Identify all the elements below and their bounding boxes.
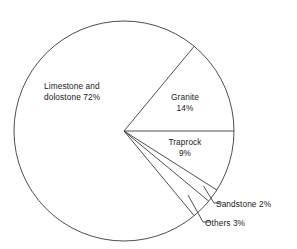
- pie-chart-canvas: [0, 0, 297, 249]
- slice-label-sandstone-text: Sandstone 2%: [216, 199, 271, 210]
- slice-label-limestone-line-2: dolostone 72%: [44, 92, 100, 103]
- slice-label-others-text: Others 3%: [205, 218, 245, 229]
- slice-label-limestone-line-1: Limestone and: [44, 81, 100, 92]
- slice-label-others: Others 3%: [205, 218, 245, 229]
- pie-chart-figure: Limestone and dolostone 72% Granite 14% …: [0, 0, 297, 249]
- slice-label-limestone-and-dolostone: Limestone and dolostone 72%: [44, 81, 100, 102]
- slice-label-granite-value: 14%: [154, 103, 216, 114]
- slice-label-traprock-name: Traprock: [152, 137, 218, 148]
- slice-label-granite-name: Granite: [154, 92, 216, 103]
- slice-label-traprock: Traprock 9%: [152, 137, 218, 158]
- slice-label-granite: Granite 14%: [154, 92, 216, 113]
- slice-label-sandstone: Sandstone 2%: [216, 199, 271, 210]
- slice-label-traprock-value: 9%: [152, 148, 218, 159]
